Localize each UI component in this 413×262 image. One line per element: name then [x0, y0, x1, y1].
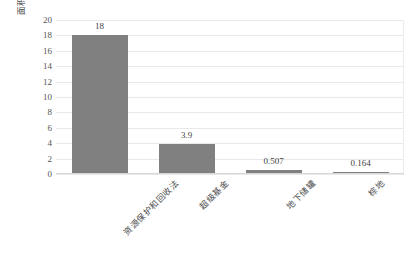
x-axis-category-labels: 资源保护和回收法超级基金地下储罐棕地 — [56, 176, 404, 260]
bar-value-label: 0.507 — [263, 156, 283, 166]
x-axis-category-label: 棕地 — [366, 178, 387, 199]
bar-chart: 面积（百万英亩） 20181614121086420 183.90.5070.1… — [0, 0, 413, 262]
x-label-slot: 资源保护和回收法 — [56, 176, 143, 260]
bar[interactable] — [72, 35, 128, 174]
y-axis-tick-label: 4 — [24, 138, 52, 148]
x-axis-line — [56, 173, 404, 174]
bar[interactable] — [159, 144, 215, 174]
plot-area: 183.90.5070.164 — [56, 20, 404, 174]
gridline — [56, 174, 404, 175]
x-axis-category-label: 超级基金 — [197, 178, 231, 212]
bar-slot: 0.164 — [317, 20, 404, 174]
y-axis-tick-label: 6 — [24, 123, 52, 133]
y-axis-tick-label: 20 — [24, 15, 52, 25]
bar-slot: 3.9 — [143, 20, 230, 174]
bar-value-label: 3.9 — [181, 130, 192, 140]
y-axis-tick-label: 2 — [24, 154, 52, 164]
y-axis-tick-labels: 20181614121086420 — [24, 20, 52, 174]
y-axis-tick-label: 14 — [24, 61, 52, 71]
bar-value-label: 18 — [95, 21, 104, 31]
x-axis-category-label: 地下储罐 — [284, 178, 318, 212]
y-axis-tick-label: 16 — [24, 46, 52, 56]
x-label-slot: 棕地 — [317, 176, 404, 260]
y-axis-tick-label: 0 — [24, 169, 52, 179]
y-axis-tick-label: 18 — [24, 30, 52, 40]
y-axis-tick-label: 12 — [24, 77, 52, 87]
y-axis-tick-label: 10 — [24, 92, 52, 102]
x-label-slot: 地下储罐 — [230, 176, 317, 260]
bar-slot: 0.507 — [230, 20, 317, 174]
x-label-slot: 超级基金 — [143, 176, 230, 260]
bar-slot: 18 — [56, 20, 143, 174]
bar-value-label: 0.164 — [350, 158, 370, 168]
y-axis-tick-label: 8 — [24, 107, 52, 117]
